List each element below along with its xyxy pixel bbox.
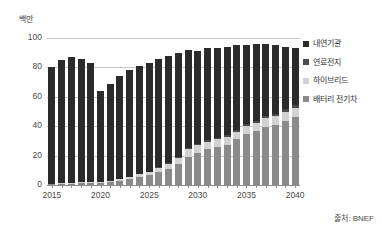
bar-segment bbox=[224, 137, 231, 145]
bar-segment bbox=[214, 48, 221, 138]
bar-2025 bbox=[146, 63, 153, 185]
bar-segment bbox=[155, 172, 162, 185]
x-axis-tick-mark bbox=[227, 185, 228, 188]
bar-segment bbox=[194, 145, 201, 152]
bar-segment bbox=[292, 108, 299, 117]
bar-segment bbox=[272, 45, 279, 114]
bar-2037 bbox=[262, 44, 269, 185]
x-axis-tick-label: 2015 bbox=[37, 190, 67, 200]
bar-segment bbox=[214, 139, 221, 146]
legend-item-label: 배터리 전기차 bbox=[313, 95, 357, 104]
x-axis-tick-mark bbox=[91, 185, 92, 188]
bar-segment bbox=[175, 158, 182, 165]
y-axis-unit-title: 백만 bbox=[19, 15, 33, 25]
bar-segment bbox=[243, 134, 250, 185]
bar-segment bbox=[194, 51, 201, 144]
bar-2015 bbox=[48, 67, 55, 185]
bar-segment bbox=[78, 59, 85, 183]
x-axis-tick-label: 2030 bbox=[183, 190, 213, 200]
bar-2027 bbox=[165, 56, 172, 185]
bar-2040 bbox=[292, 48, 299, 185]
legend-item[interactable]: 하이브리드 bbox=[303, 76, 382, 85]
bar-2032 bbox=[214, 48, 221, 185]
bar-2020 bbox=[97, 91, 104, 185]
bar-2021 bbox=[107, 84, 114, 185]
bar-2024 bbox=[136, 66, 143, 185]
bar-2030 bbox=[194, 51, 201, 185]
bar-2026 bbox=[155, 59, 162, 185]
bar-segment bbox=[243, 45, 250, 124]
y-axis-tick-label: 60 bbox=[12, 92, 42, 101]
bar-segment bbox=[262, 44, 269, 116]
bar-segment bbox=[146, 63, 153, 172]
bar-segment bbox=[185, 149, 192, 157]
source-note: 출처: BNEF bbox=[334, 214, 374, 224]
bar-2019 bbox=[87, 63, 94, 185]
bar-segment bbox=[107, 84, 114, 181]
bar-segment bbox=[272, 125, 279, 185]
legend: 내연기관연료전지하이브리드배터리 전기차 bbox=[303, 39, 382, 113]
x-axis-tick-mark bbox=[52, 185, 53, 188]
bar-segment bbox=[282, 112, 289, 121]
bar-segment bbox=[214, 147, 221, 185]
bar-segment bbox=[165, 56, 172, 163]
x-axis-tick-mark bbox=[276, 185, 277, 188]
bar-segment bbox=[233, 139, 240, 185]
bar-segment bbox=[292, 117, 299, 185]
x-axis-tick-label: 2020 bbox=[86, 190, 116, 200]
legend-swatch-icon bbox=[303, 59, 309, 65]
bar-segment bbox=[185, 157, 192, 185]
bar-segment bbox=[253, 44, 260, 121]
legend-item-label: 내연기관 bbox=[313, 39, 341, 48]
x-axis-tick-mark bbox=[159, 185, 160, 188]
bar-segment bbox=[116, 76, 123, 179]
legend-item[interactable]: 내연기관 bbox=[303, 39, 382, 48]
bar-2016 bbox=[58, 60, 65, 185]
bar-2039 bbox=[282, 47, 289, 185]
x-axis-tick-mark bbox=[110, 185, 111, 188]
bar-segment bbox=[175, 164, 182, 185]
bar-segment bbox=[185, 50, 192, 148]
x-axis-tick-mark bbox=[256, 185, 257, 188]
bar-segment bbox=[282, 47, 289, 109]
bar-segment bbox=[126, 70, 133, 177]
bar-segment bbox=[68, 57, 75, 183]
x-axis-tick-label: 2035 bbox=[231, 190, 261, 200]
x-axis-tick-mark bbox=[120, 185, 121, 188]
bar-2034 bbox=[233, 45, 240, 185]
bar-2028 bbox=[175, 53, 182, 185]
x-axis-tick-mark bbox=[208, 185, 209, 188]
x-axis-tick-mark bbox=[62, 185, 63, 188]
bar-segment bbox=[136, 66, 143, 174]
x-axis-tick-mark bbox=[188, 185, 189, 188]
legend-item[interactable]: 배터리 전기차 bbox=[303, 95, 382, 104]
plot-area: 201520202025203020352040 bbox=[47, 38, 300, 185]
bar-segment bbox=[233, 132, 240, 140]
bar-segment bbox=[175, 53, 182, 157]
bar-group bbox=[47, 38, 300, 185]
bar-segment bbox=[58, 60, 65, 183]
bar-segment bbox=[87, 63, 94, 182]
gridline-0 bbox=[47, 185, 300, 186]
bar-2022 bbox=[116, 76, 123, 185]
bar-segment bbox=[224, 47, 231, 136]
bar-segment bbox=[155, 59, 162, 168]
y-axis-tick-label: 0 bbox=[12, 180, 42, 189]
bar-segment bbox=[204, 142, 211, 149]
bar-segment bbox=[262, 118, 269, 127]
bar-2036 bbox=[253, 44, 260, 185]
bar-segment bbox=[253, 131, 260, 185]
legend-item-label: 연료전지 bbox=[313, 58, 341, 67]
chart-root: 백만 201520202025203020352040 100806040200… bbox=[0, 0, 382, 233]
x-axis-tick-mark bbox=[285, 185, 286, 188]
x-axis-tick-mark bbox=[101, 185, 102, 188]
bar-segment bbox=[165, 169, 172, 185]
x-axis-tick-mark bbox=[266, 185, 267, 188]
bar-2038 bbox=[272, 45, 279, 185]
bar-2017 bbox=[68, 57, 75, 185]
bar-2035 bbox=[243, 45, 250, 185]
legend-swatch-icon bbox=[303, 96, 309, 102]
x-axis-tick-mark bbox=[295, 185, 296, 188]
y-axis-tick-label: 80 bbox=[12, 62, 42, 71]
legend-item[interactable]: 연료전지 bbox=[303, 58, 382, 67]
